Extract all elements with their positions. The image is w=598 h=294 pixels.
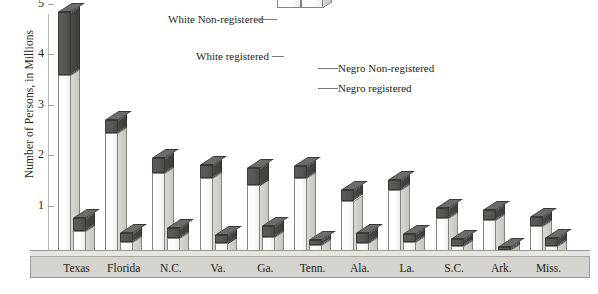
white-ga-nonregistered-segment xyxy=(247,168,260,186)
legend-leader-negro-nonregistered xyxy=(318,68,338,69)
white-tenn-top-face xyxy=(294,157,321,166)
x-axis-label: Miss. xyxy=(514,262,583,274)
white-ark-top-face xyxy=(483,201,510,210)
white-tenn-registered-segment xyxy=(294,178,307,256)
white-ala-column xyxy=(341,190,354,256)
white-ala-registered-segment xyxy=(341,201,354,256)
white-miss-top-face xyxy=(530,208,557,217)
white-sc-nonregistered-segment xyxy=(436,208,449,218)
chart-legend: White Non-registered White registered Ne… xyxy=(0,0,598,110)
legend-label-negro-nonregistered: Negro Non-registered xyxy=(338,62,434,74)
y-tick-mark xyxy=(48,206,54,207)
legend-label-negro-registered: Negro registered xyxy=(338,82,412,94)
legend-negro-registered-side xyxy=(323,0,332,8)
chart-figure: Number of Persons, in Millions 12345 Tex… xyxy=(0,0,598,294)
white-la-registered-segment xyxy=(388,190,401,256)
white-la-nonregistered-segment xyxy=(388,180,401,190)
white-la-top-face xyxy=(388,171,415,180)
legend-label-white-nonregistered: White Non-registered xyxy=(168,13,264,25)
negro-ga-nonregistered-segment xyxy=(262,226,275,237)
white-ala-top-face xyxy=(341,181,368,190)
negro-miss-nonregistered-segment xyxy=(545,238,558,246)
negro-florida-nonregistered-segment xyxy=(120,233,133,242)
white-ga-top-face xyxy=(247,159,274,168)
white-la-column xyxy=(388,180,401,256)
y-tick-mark xyxy=(48,155,54,156)
white-ga-registered-segment xyxy=(247,185,260,256)
white-va-column xyxy=(200,165,213,256)
white-sc-column xyxy=(436,208,449,256)
legend-leader-white-nonregistered xyxy=(259,19,277,20)
legend-white-registered-swatch xyxy=(277,0,301,8)
negro-sc-nonregistered-segment xyxy=(451,239,464,246)
white-florida-nonregistered-segment xyxy=(105,120,118,133)
white-nc-column xyxy=(152,158,165,256)
negro-texas-nonregistered-segment xyxy=(73,218,86,231)
negro-la-nonregistered-segment xyxy=(403,234,416,242)
white-va-top-face xyxy=(200,156,227,165)
white-va-nonregistered-segment xyxy=(200,165,213,178)
white-tenn-column xyxy=(294,166,307,256)
white-nc-top-face xyxy=(152,149,179,158)
negro-ala-nonregistered-segment xyxy=(356,233,369,243)
white-va-registered-segment xyxy=(200,178,213,256)
legend-negro-column xyxy=(301,0,323,8)
legend-white-column xyxy=(277,0,301,8)
white-nc-nonregistered-segment xyxy=(152,158,165,173)
negro-va-nonregistered-segment xyxy=(215,235,228,244)
y-tick-label: 2 xyxy=(26,147,44,162)
white-tenn-nonregistered-segment xyxy=(294,166,307,178)
legend-leader-negro-registered xyxy=(318,88,338,89)
legend-leader-white-registered xyxy=(272,56,284,57)
white-sc-top-face xyxy=(436,199,463,208)
white-florida-registered-segment xyxy=(105,133,118,256)
negro-nc-nonregistered-segment xyxy=(167,228,180,238)
negro-tenn-nonregistered-segment xyxy=(309,240,322,245)
y-tick-label: 1 xyxy=(26,198,44,213)
white-nc-registered-segment xyxy=(152,173,165,256)
white-ga-column xyxy=(247,168,260,256)
white-ark-nonregistered-segment xyxy=(483,210,496,220)
white-miss-nonregistered-segment xyxy=(530,217,543,226)
white-florida-top-face xyxy=(105,111,132,120)
white-florida-column xyxy=(105,120,118,256)
white-ala-nonregistered-segment xyxy=(341,190,354,200)
legend-negro-registered-swatch xyxy=(301,0,323,8)
legend-label-white-registered: White registered xyxy=(196,50,269,62)
